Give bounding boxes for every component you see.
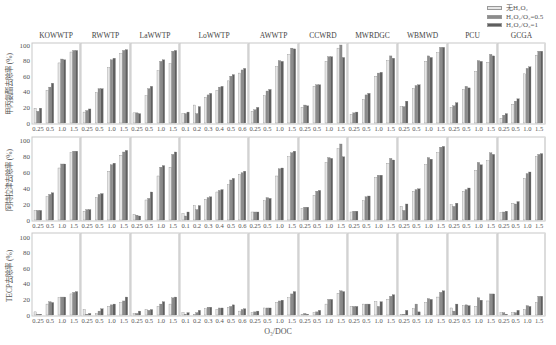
bar xyxy=(442,47,444,123)
x-tick-label: 1.5 xyxy=(535,222,543,229)
bar xyxy=(368,196,370,220)
bar xyxy=(487,161,489,220)
bar xyxy=(390,296,392,315)
bar xyxy=(150,310,152,315)
y-tick-label: 80 xyxy=(23,57,31,65)
bar xyxy=(120,155,122,220)
x-tick-label: 1.0 xyxy=(276,125,284,132)
bar xyxy=(293,292,295,315)
bar xyxy=(113,58,115,123)
bar xyxy=(160,167,162,220)
bar xyxy=(418,189,420,220)
bar xyxy=(58,298,60,315)
bar xyxy=(405,101,407,123)
bar xyxy=(403,210,405,220)
bar xyxy=(328,158,330,220)
x-tick-label: 0.5 xyxy=(263,317,271,324)
bar xyxy=(325,162,327,220)
y-tick-label: 20 xyxy=(23,104,31,112)
bar xyxy=(51,303,53,315)
x-tick-label: 1.0 xyxy=(475,222,483,229)
bar xyxy=(113,304,115,315)
bar xyxy=(254,212,256,220)
bar xyxy=(437,53,439,123)
bar xyxy=(306,314,308,315)
bar xyxy=(538,51,540,123)
x-tick-label: 1.0 xyxy=(58,317,66,324)
bar xyxy=(162,166,164,220)
bar xyxy=(365,197,367,220)
x-tick-label: 0.5 xyxy=(412,317,420,324)
bar xyxy=(540,296,542,315)
bar xyxy=(427,299,429,315)
bar xyxy=(263,201,265,220)
bar xyxy=(313,195,315,220)
bar xyxy=(455,203,457,220)
y-axis-title: 甲丙氨酯去除率 (%) xyxy=(4,52,14,115)
bar xyxy=(350,212,352,220)
x-tick-label: 1.5 xyxy=(120,317,128,324)
bar xyxy=(392,160,394,220)
bar xyxy=(98,194,100,220)
bar xyxy=(291,48,293,123)
bar xyxy=(477,61,479,123)
bar xyxy=(75,151,77,220)
y-tick-label: 20 xyxy=(23,296,31,304)
bar xyxy=(390,158,392,220)
bar xyxy=(133,113,135,123)
bar xyxy=(503,212,505,220)
x-tick-label: 0.25 xyxy=(398,317,409,324)
x-tick-label: 0.1 xyxy=(182,222,190,229)
panel-title: AWWTP xyxy=(260,31,288,40)
bar xyxy=(316,85,318,123)
x-tick-label: 0.4 xyxy=(216,222,225,229)
panel-title: GCGA xyxy=(511,31,533,40)
bar xyxy=(523,74,525,123)
x-tick-label: 0.25 xyxy=(131,125,142,132)
bar xyxy=(427,158,429,220)
bar xyxy=(480,300,482,315)
bar xyxy=(293,151,295,220)
bar xyxy=(340,291,342,315)
bar xyxy=(266,91,268,123)
x-tick-label: 1.0 xyxy=(375,222,383,229)
bar xyxy=(193,314,195,315)
bar xyxy=(88,313,90,315)
x-tick-label: 1.5 xyxy=(437,222,445,229)
x-tick-label: 0.25 xyxy=(32,222,43,229)
panel-title: LoWWTP xyxy=(198,31,229,40)
bar xyxy=(425,165,427,220)
x-tick-label: 1.5 xyxy=(387,222,395,229)
bar xyxy=(110,165,112,220)
bar xyxy=(160,61,162,123)
bar xyxy=(269,198,271,220)
x-tick-label: 1.5 xyxy=(535,125,543,132)
bar xyxy=(450,107,452,123)
bar xyxy=(49,302,51,315)
bar xyxy=(353,211,355,220)
bar xyxy=(37,210,39,220)
bar xyxy=(83,211,85,220)
bar xyxy=(110,305,112,315)
x-tick-label: 1.5 xyxy=(120,125,128,132)
bar xyxy=(266,198,268,220)
bar xyxy=(535,303,537,315)
bar xyxy=(70,294,72,315)
bar xyxy=(377,175,379,220)
bar xyxy=(174,297,176,315)
bar xyxy=(477,298,479,315)
bar xyxy=(232,178,234,220)
bar xyxy=(375,76,377,123)
x-tick-label: 0.5 xyxy=(95,125,103,132)
bar xyxy=(276,176,278,220)
bar xyxy=(529,306,531,315)
bar xyxy=(365,304,367,315)
bar xyxy=(218,87,220,123)
bar xyxy=(514,313,516,315)
x-tick-label: 0.5 xyxy=(462,125,470,132)
bar xyxy=(136,313,138,315)
x-tick-label: 1.0 xyxy=(425,222,433,229)
bar xyxy=(210,197,212,220)
bar xyxy=(468,88,470,123)
y-tick-label: 100 xyxy=(20,42,31,50)
